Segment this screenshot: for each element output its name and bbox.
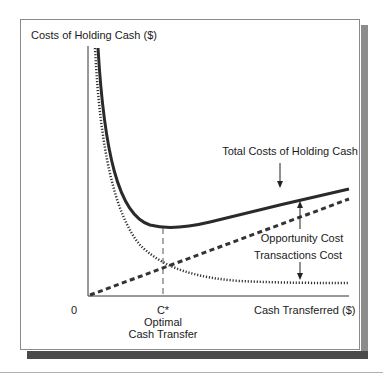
chart-plot <box>0 0 383 377</box>
y-axis-label: Costs of Holding Cash ($) <box>31 29 157 42</box>
total-arrow-icon <box>277 163 283 188</box>
total-cost-label: Total Costs of Holding Cash <box>222 145 358 158</box>
total-cost-curve <box>98 48 349 227</box>
transactions-cost-curve <box>95 48 349 283</box>
x-axis-label: Cash Transferred ($) <box>254 304 355 317</box>
opportunity-cost-label: Opportunity Cost <box>261 232 344 245</box>
transactions-cost-label: Transactions Cost <box>254 249 342 262</box>
transactions-arrow-icon <box>297 262 303 280</box>
opportunity-cost-line <box>90 199 349 295</box>
origin-label: 0 <box>71 304 77 317</box>
cash-transfer-label: Cash Transfer <box>128 328 197 341</box>
opportunity-arrow-icon <box>297 201 303 229</box>
